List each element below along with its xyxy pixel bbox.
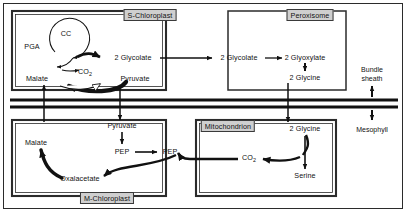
metabolite-pyruvate-bundle-sheath: Pyruvate: [120, 75, 149, 83]
arrow-cc-to-glycolate: [77, 54, 100, 57]
metabolite-pep-left: PEP: [115, 148, 130, 156]
m-chloroplast-box: [12, 120, 166, 196]
organelle-label-mitochondrion: Mitochondrion: [201, 120, 255, 132]
tissue-label-mesophyll: Mesophyll: [356, 126, 388, 135]
bundle-sheath-line1: Bundle: [361, 66, 383, 73]
metabolite-malate-mesophyll: Malate: [25, 139, 47, 147]
metabolite-glycine-peroxisome: 2 Glycine: [290, 74, 321, 82]
arrow-oxalacetate-to-malate: [41, 150, 62, 178]
arrow-cycle-to-co2: [62, 70, 79, 71]
metabolite-co2-mitochondrion: CO2: [242, 154, 256, 164]
metabolite-oxalacetate: Oxalacetate: [60, 175, 99, 183]
metabolite-glycolate-peroxisome: 2 Glycolate: [220, 54, 257, 62]
diagram-root: S-Chloroplast Peroxisome Mitochondrion M…: [0, 0, 408, 214]
metabolite-glycine-mitochondrion: 2 Glycine: [290, 125, 321, 133]
metabolite-pyruvate-mesophyll: Pyruvate: [107, 122, 136, 130]
tissue-label-bundle-sheath: Bundle sheath: [361, 66, 383, 83]
arrow-glycine-to-co2: [263, 157, 300, 161]
bundle-sheath-line2: sheath: [361, 74, 382, 81]
arrow-malate-to-co2: [60, 84, 100, 89]
metabolite-serine: Serine: [294, 172, 315, 180]
arrow-co2-to-pep: [178, 153, 238, 159]
organelle-label-m-chloroplast: M-Chloroplast: [80, 192, 134, 204]
organelle-label-peroxisome: Peroxisome: [287, 9, 334, 21]
peroxisome-box: [228, 11, 346, 90]
metabolite-glycolate-chloroplast: 2 Glycolate: [114, 54, 151, 62]
organelle-label-s-chloroplast: S-Chloroplast: [124, 9, 177, 21]
metabolite-pep-right: PEP: [163, 148, 178, 156]
mesophyll-line1: Mesophyll: [356, 126, 388, 133]
calvin-cycle-ring: [50, 18, 90, 67]
tissue-boundary: [10, 100, 398, 107]
metabolite-cc: CC: [61, 30, 72, 38]
metabolite-glyoxylate: 2 Glyoxylate: [285, 54, 326, 62]
metabolite-co2-bundle-sheath: CO2: [78, 68, 92, 78]
metabolite-pga: PGA: [24, 43, 39, 51]
metabolite-malate-bundle-sheath: Malate: [26, 75, 48, 83]
